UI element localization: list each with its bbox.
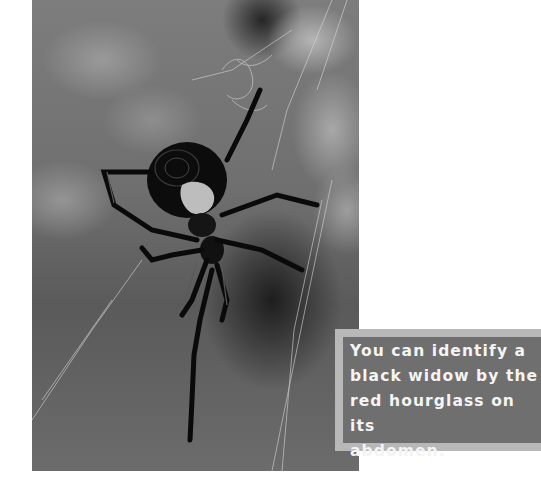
caption-line-1: You can identify a (350, 342, 526, 360)
caption-line-3: red hourglass on its (350, 392, 515, 435)
photo-caption: You can identify a black widow by the re… (350, 339, 541, 464)
spider-illustration (32, 0, 359, 471)
caption-line-2: black widow by the (350, 367, 538, 385)
black-widow-spider-photo (32, 0, 359, 471)
caption-line-4: abdomen. (350, 442, 446, 460)
